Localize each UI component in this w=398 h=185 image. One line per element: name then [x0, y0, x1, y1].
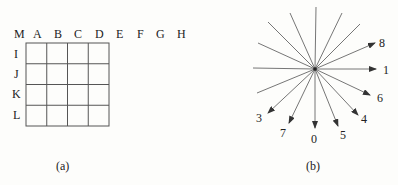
row-label-i: I [14, 48, 18, 60]
col-label-f: F [137, 28, 144, 40]
direction-label-1: 1 [383, 64, 389, 76]
row-label-k: K [12, 88, 21, 100]
caption-a: (a) [56, 160, 69, 172]
direction-label-8: 8 [379, 37, 385, 49]
col-label-g: G [156, 28, 165, 40]
direction-label-0: 0 [311, 133, 317, 145]
star-center-dot [313, 67, 317, 71]
col-label-c: C [74, 28, 82, 40]
col-label-m: M [14, 28, 25, 40]
col-label-h: H [177, 28, 186, 40]
direction-label-7: 7 [280, 127, 286, 139]
col-label-a: A [33, 28, 42, 40]
caption-b: (b) [306, 160, 320, 172]
direction-label-3: 3 [256, 112, 262, 124]
grid-4x4 [26, 43, 109, 126]
direction-label-6: 6 [377, 92, 383, 104]
col-label-e: E [116, 28, 123, 40]
col-label-d: D [95, 28, 104, 40]
row-label-l: L [13, 109, 20, 121]
col-label-b: B [54, 28, 62, 40]
direction-label-5: 5 [340, 129, 346, 141]
direction-label-4: 4 [361, 113, 367, 125]
row-label-j: J [14, 68, 19, 80]
